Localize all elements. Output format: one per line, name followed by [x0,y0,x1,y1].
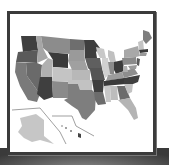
state-south-dakota [68,50,85,61]
state-connecticut-ri [140,53,147,56]
state-north-dakota [70,39,84,50]
state-new-jersey [137,58,140,66]
state-montana [41,36,70,54]
state-maryland [128,65,137,69]
state-arizona [37,77,53,100]
state-vermont-nh [138,40,144,50]
state-hawaii-big [78,133,81,138]
state-iowa [85,58,102,68]
state-pennsylvania [122,57,137,65]
state-west-virginia [123,66,128,72]
state-florida [118,98,138,120]
state-new-mexico [52,81,68,98]
map-frame [7,11,156,155]
state-hawaii-1 [61,125,63,127]
state-nebraska [68,61,88,70]
state-colorado [52,67,72,82]
state-michigan [108,50,116,62]
us-map-icon [10,14,153,152]
state-arkansas [92,80,104,92]
inset-divider-hawaii [52,116,94,136]
state-utah [41,58,53,77]
state-oregon [16,50,38,63]
state-hawaii-2 [65,127,67,129]
state-washington [21,36,38,52]
state-missouri [88,68,105,80]
state-wisconsin [96,47,106,58]
state-alabama [110,86,118,100]
state-mississippi [104,86,111,102]
state-louisiana [94,92,106,105]
state-hawaii-3 [70,130,72,132]
state-new-york [124,46,140,58]
state-kansas [72,70,90,80]
state-maine [143,30,152,44]
